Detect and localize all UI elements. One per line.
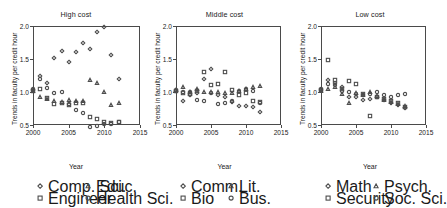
x-axis-tick-label: 2000 bbox=[314, 129, 329, 136]
data-point bbox=[102, 122, 107, 127]
y-axis-tick bbox=[30, 59, 33, 60]
data-point bbox=[45, 95, 50, 100]
x-axis-label: Year bbox=[297, 163, 443, 170]
y-axis-label: Trends in faculty per credit hour bbox=[299, 33, 306, 125]
plot-frame bbox=[33, 26, 140, 125]
data-point bbox=[360, 97, 365, 102]
data-point bbox=[388, 94, 393, 99]
x-axis-tick bbox=[69, 125, 70, 128]
y-axis-tick bbox=[173, 26, 176, 27]
data-point bbox=[194, 88, 199, 93]
panel-title: Middle cost bbox=[152, 10, 297, 19]
panel-middle-cost: Middle costTrends in faculty per credit … bbox=[152, 0, 297, 205]
square-marker-icon bbox=[37, 195, 46, 204]
x-axis-tick-label: 2005 bbox=[349, 129, 364, 136]
y-axis-tick bbox=[173, 125, 176, 126]
y-axis-tick-label: 1.5 bbox=[300, 56, 317, 63]
data-point bbox=[52, 101, 57, 106]
x-axis-tick-label: 2005 bbox=[61, 129, 76, 136]
data-point bbox=[402, 104, 407, 109]
data-point bbox=[332, 82, 337, 87]
data-point bbox=[80, 40, 85, 45]
data-point bbox=[94, 116, 99, 121]
data-point bbox=[94, 81, 99, 86]
data-point bbox=[250, 99, 255, 104]
x-axis-tick-label: 2010 bbox=[384, 129, 399, 136]
y-axis-tick-label: 2.0 bbox=[12, 23, 29, 30]
data-point bbox=[250, 88, 255, 93]
data-point bbox=[346, 101, 351, 106]
data-point bbox=[201, 99, 206, 104]
y-axis-tick-label: 1.0 bbox=[12, 89, 29, 96]
data-point bbox=[109, 102, 114, 107]
x-axis-tick-label: 2000 bbox=[26, 129, 41, 136]
x-axis-tick bbox=[321, 125, 322, 128]
data-point bbox=[236, 93, 241, 98]
y-axis-tick bbox=[30, 125, 33, 126]
data-point bbox=[73, 101, 78, 106]
data-point bbox=[367, 96, 372, 101]
x-axis-tick bbox=[246, 125, 247, 128]
data-point bbox=[243, 86, 248, 91]
data-point bbox=[208, 66, 213, 71]
y-axis-tick bbox=[318, 59, 321, 60]
legend-label: Bio bbox=[191, 190, 214, 208]
data-point bbox=[59, 101, 64, 106]
data-point bbox=[346, 79, 351, 84]
y-axis-label: Trends in faculty per credit hour bbox=[154, 33, 161, 125]
circle-marker-icon bbox=[228, 195, 237, 204]
y-axis-tick-label: 1.5 bbox=[12, 56, 29, 63]
x-axis-tick bbox=[33, 125, 34, 128]
data-point bbox=[374, 89, 379, 94]
data-point bbox=[194, 97, 199, 102]
data-point bbox=[325, 86, 330, 91]
data-point bbox=[201, 76, 206, 81]
y-axis-tick bbox=[318, 26, 321, 27]
data-point bbox=[236, 88, 241, 93]
data-point bbox=[222, 69, 227, 74]
data-point bbox=[109, 52, 114, 57]
y-axis-tick-label: 0.5 bbox=[300, 122, 317, 129]
data-point bbox=[87, 46, 92, 51]
x-axis-tick-label: 2005 bbox=[204, 129, 219, 136]
x-axis-tick-label: 2015 bbox=[419, 129, 434, 136]
data-point bbox=[229, 99, 234, 104]
panel-title: High cost bbox=[0, 10, 152, 19]
x-axis-label: Year bbox=[0, 163, 152, 170]
data-point bbox=[395, 92, 400, 97]
data-point bbox=[94, 124, 99, 129]
data-point bbox=[87, 77, 92, 82]
data-point bbox=[402, 91, 407, 96]
data-point bbox=[87, 114, 92, 119]
circle-marker-icon bbox=[85, 195, 94, 204]
data-point bbox=[201, 69, 206, 74]
data-point bbox=[180, 98, 185, 103]
data-point bbox=[73, 50, 78, 55]
x-axis-tick bbox=[140, 125, 141, 128]
x-axis-label: Year bbox=[152, 163, 297, 170]
data-point bbox=[346, 89, 351, 94]
data-point bbox=[215, 101, 220, 106]
circle-marker-icon bbox=[373, 195, 382, 204]
data-point bbox=[250, 104, 255, 109]
x-axis-tick-label: 2015 bbox=[274, 129, 289, 136]
x-axis-tick bbox=[426, 125, 427, 128]
square-marker-icon bbox=[325, 195, 334, 204]
data-point bbox=[37, 94, 42, 99]
data-point bbox=[222, 101, 227, 106]
data-point bbox=[339, 88, 344, 93]
plot-frame bbox=[321, 26, 426, 125]
panel-high-cost: High costTrends in faculty per credit ho… bbox=[0, 0, 152, 205]
data-point bbox=[109, 121, 114, 126]
data-point bbox=[66, 101, 71, 106]
y-axis-tick-label: 0.5 bbox=[12, 122, 29, 129]
y-axis-tick-label: 1.5 bbox=[155, 56, 172, 63]
data-point bbox=[325, 81, 330, 86]
x-axis-tick bbox=[356, 125, 357, 128]
y-axis-tick bbox=[30, 26, 33, 27]
data-point bbox=[374, 95, 379, 100]
data-point bbox=[66, 60, 71, 65]
x-axis-tick-label: 2000 bbox=[169, 129, 184, 136]
data-point bbox=[116, 77, 121, 82]
data-point bbox=[102, 25, 107, 30]
